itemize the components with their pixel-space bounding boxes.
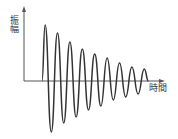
y-axis-arrow-icon — [22, 6, 26, 12]
x-axis-label: 時間 — [149, 83, 167, 93]
damped-oscillation-chart — [0, 0, 178, 139]
waveform-line — [42, 25, 148, 132]
y-axis-label: 振幅 — [9, 15, 19, 33]
